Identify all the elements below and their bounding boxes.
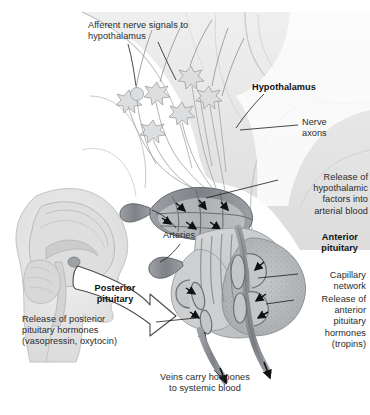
label-hypothalamus: Hypothalamus: [252, 82, 352, 93]
label-arteries: Arteries: [163, 230, 223, 241]
label-nerve-axons: Nerve axons: [302, 117, 362, 139]
label-anterior-pituitary: Anterior pituitary: [262, 232, 358, 254]
label-release-hypothalamic-factors: Release of hypothalamic factors into art…: [282, 172, 368, 217]
pituitary-hypothalamus-figure: Afferent nerve signals to hypothalamus H…: [0, 0, 370, 415]
label-release-anterior-hormones: Release of anterior pituitary hormones (…: [296, 294, 366, 350]
label-release-posterior-hormones: Release of posterior pituitary hormones …: [22, 314, 172, 348]
label-afferent-nerve-signals: Afferent nerve signals to hypothalamus: [88, 20, 228, 42]
label-capillary-network: Capillary network: [300, 270, 366, 292]
label-posterior-pituitary: Posterior pituitary: [58, 283, 172, 305]
label-veins-carry-hormones: Veins carry hormones to systemic blood: [140, 372, 270, 394]
